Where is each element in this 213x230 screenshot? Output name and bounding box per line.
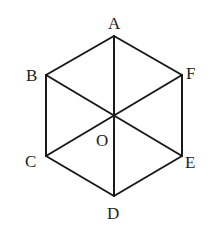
edge-ab — [46, 36, 114, 75]
vertex-label-e: E — [185, 153, 195, 172]
hexagon-figure: ABFOCED — [0, 0, 213, 230]
vertex-label-a: A — [108, 14, 121, 33]
edge-cd — [46, 156, 114, 196]
hexagon-diagram: ABFOCED — [0, 0, 213, 230]
vertex-label-b: B — [26, 66, 37, 85]
vertex-label-c: C — [25, 152, 36, 171]
vertex-label-d: D — [107, 204, 119, 223]
edge-de — [114, 156, 182, 196]
hexagon-diagonals — [46, 36, 182, 196]
vertex-label-f: F — [186, 64, 195, 83]
edge-fa — [114, 36, 182, 75]
vertex-label-o: O — [96, 131, 108, 150]
